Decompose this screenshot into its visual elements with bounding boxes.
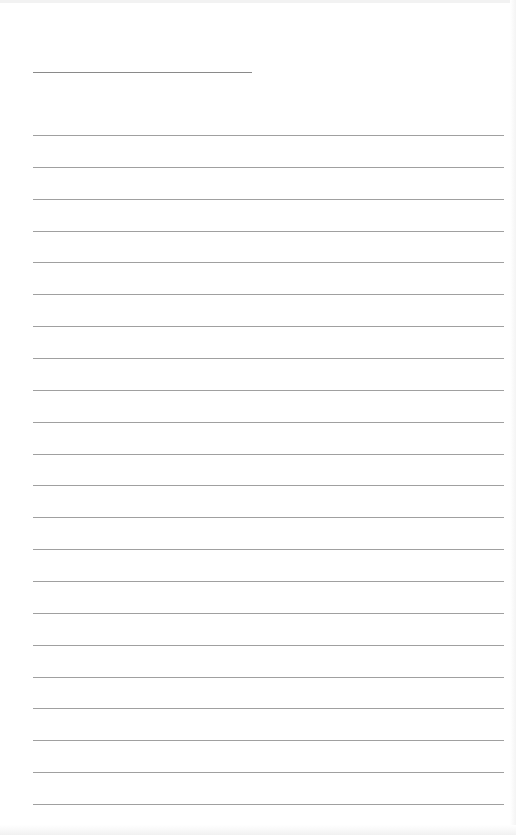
ruled-line[interactable] [33, 772, 504, 773]
ruled-line[interactable] [33, 708, 504, 709]
ruled-line[interactable] [33, 677, 504, 678]
ruled-line[interactable] [33, 581, 504, 582]
ruled-line[interactable] [33, 485, 504, 486]
ruled-line[interactable] [33, 262, 504, 263]
ruled-line[interactable] [33, 613, 504, 614]
page-right-edge [510, 0, 516, 835]
ruled-line[interactable] [33, 167, 504, 168]
ruled-line[interactable] [33, 454, 504, 455]
ruled-line[interactable] [33, 294, 504, 295]
ruled-line[interactable] [33, 326, 504, 327]
ruled-line[interactable] [33, 422, 504, 423]
ruled-line[interactable] [33, 804, 504, 805]
ruled-line[interactable] [33, 135, 504, 136]
ruled-line[interactable] [33, 358, 504, 359]
ruled-line[interactable] [33, 549, 504, 550]
ruled-line[interactable] [33, 199, 504, 200]
ruled-lines-area [33, 0, 504, 835]
ruled-line[interactable] [33, 517, 504, 518]
ruled-line[interactable] [33, 740, 504, 741]
ruled-line[interactable] [33, 390, 504, 391]
ruled-line[interactable] [33, 645, 504, 646]
ruled-line[interactable] [33, 231, 504, 232]
